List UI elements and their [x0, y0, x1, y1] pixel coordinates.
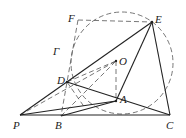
label-B: B: [55, 119, 62, 131]
segment-PO: [20, 61, 116, 115]
label-D: D: [56, 74, 65, 86]
label-O: O: [119, 55, 127, 67]
segment-PA: [20, 101, 116, 115]
segment-EC: [152, 22, 170, 115]
point-A: [115, 100, 117, 102]
label-C: C: [166, 119, 174, 131]
segment-BA: [61, 101, 116, 116]
label-gamma: Γ: [52, 45, 60, 57]
label-F: F: [67, 12, 75, 24]
segment-FE: [78, 20, 152, 22]
point-D: [66, 81, 68, 83]
label-A: A: [119, 93, 127, 105]
label-P: P: [12, 119, 20, 131]
segment-PE: [20, 22, 152, 115]
point-O: [115, 60, 117, 62]
geometry-diagram: F E Γ O D A P B C: [0, 0, 186, 138]
point-E: [151, 21, 153, 23]
label-E: E: [154, 13, 162, 25]
